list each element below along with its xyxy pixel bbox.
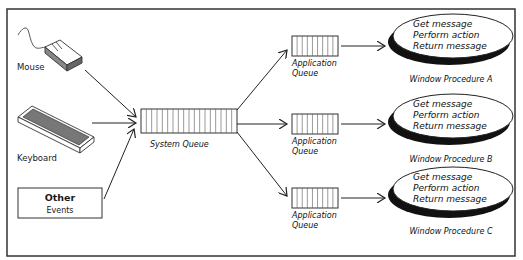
proc-c-step-1: Get message — [413, 172, 473, 182]
other-events-box: Other Events — [18, 188, 102, 218]
window-procedure-b: Get message Perform action Return messag… — [388, 94, 513, 145]
app-queue-b-line1: Application — [291, 137, 337, 146]
app-queue-a-line2: Queue — [292, 69, 318, 78]
window-procedure-c-label: Window Procedure C — [409, 227, 492, 236]
app-queue-c-line1: Application — [291, 211, 337, 220]
proc-b-step-1: Get message — [413, 99, 473, 109]
proc-b-step-3: Return message — [413, 121, 487, 131]
message-flow-diagram: Mouse Keyboard Other Events System Queue… — [0, 0, 523, 260]
proc-c-step-3: Return message — [413, 194, 487, 204]
other-events-subtitle: Events — [46, 206, 73, 215]
window-procedure-a-label: Window Procedure A — [410, 75, 493, 84]
other-events-title: Other — [45, 192, 76, 203]
app-queue-a-line1: Application — [291, 59, 337, 68]
proc-a-step-3: Return message — [413, 41, 487, 51]
app-queue-c-line2: Queue — [292, 221, 318, 230]
application-queue-c — [292, 188, 338, 208]
proc-b-step-2: Perform action — [413, 110, 480, 120]
keyboard-label: Keyboard — [17, 153, 57, 163]
window-procedure-b-label: Window Procedure B — [410, 155, 493, 164]
proc-a-step-1: Get message — [413, 19, 473, 29]
system-queue-label: System Queue — [150, 140, 209, 149]
proc-a-step-2: Perform action — [413, 30, 480, 40]
mouse-label: Mouse — [17, 62, 45, 72]
proc-c-step-2: Perform action — [413, 183, 480, 193]
application-queue-a — [292, 36, 338, 56]
application-queue-b — [292, 114, 338, 134]
window-procedure-c: Get message Perform action Return messag… — [388, 167, 513, 218]
window-procedure-a: Get message Perform action Return messag… — [388, 14, 513, 65]
system-queue — [141, 109, 237, 133]
app-queue-b-line2: Queue — [292, 147, 318, 156]
